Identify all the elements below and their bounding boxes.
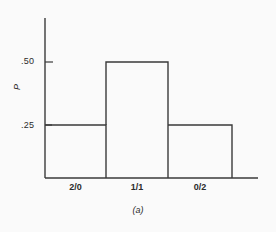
chart-plot-area [0,0,276,232]
bar-1-1 [106,62,168,178]
bar-0-2 [168,125,232,178]
bar-2-0 [45,125,106,178]
x-axis-tick-label-0-2: 0/2 [168,182,232,192]
x-axis-tick-label-1-1: 1/1 [106,182,168,192]
probability-histogram-figure: .50 .25 P 2/0 1/1 0/2 (a) [0,0,276,232]
y-axis-title: P [12,77,22,97]
y-axis-tick-label-050: .50 [21,56,34,66]
figure-caption: (a) [0,205,276,215]
y-axis-tick-label-025: .25 [21,120,34,130]
x-axis-tick-label-2-0: 2/0 [45,182,106,192]
